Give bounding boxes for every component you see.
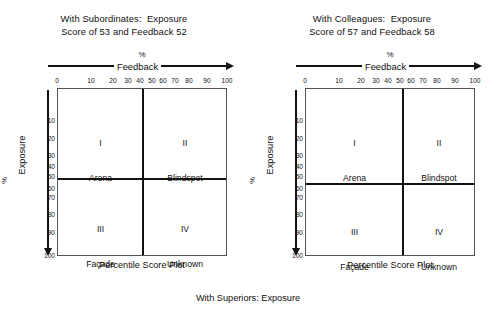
panel-title-line1: With Colleagues: Exposure <box>248 12 496 25</box>
x-tick-100: 100 <box>469 76 480 85</box>
x-tick-40: 40 <box>384 76 391 85</box>
arrow-right-icon <box>226 62 234 70</box>
y-tick-30: 30 <box>48 152 55 160</box>
y-tick-50: 50 <box>296 173 303 181</box>
panel-title: With Colleagues: Exposure Score of 57 an… <box>248 12 496 38</box>
x-tick-40: 40 <box>136 76 143 85</box>
quadrant-blindspot-roman: II <box>143 138 227 150</box>
quadrant-unknown-roman: IV <box>403 227 475 239</box>
y-tick-70: 70 <box>48 194 55 202</box>
quadrant-unknown: IV Unknown <box>143 201 227 293</box>
y-tick-60: 60 <box>48 185 55 193</box>
quadrant-arena: I Arena <box>306 115 403 207</box>
x-tick-30: 30 <box>372 76 379 85</box>
x-tick-90: 90 <box>203 76 210 85</box>
quadrant-blindspot-name: Blindspot <box>143 173 227 185</box>
quadrant-facade: III Façade <box>58 201 143 293</box>
x-tick-70: 70 <box>419 76 426 85</box>
quadrant-blindspot-name: Blindspot <box>403 173 475 185</box>
quadrant-blindspot: II Blindspot <box>403 115 475 207</box>
quadrant-blindspot-roman: II <box>403 138 475 150</box>
y-tick-10: 10 <box>48 117 55 125</box>
y-tick-40: 40 <box>296 163 303 171</box>
x-axis-line-left <box>48 65 114 67</box>
x-tick-50: 50 <box>148 76 155 85</box>
x-tick-80: 80 <box>433 76 440 85</box>
quadrant-unknown-roman: IV <box>143 224 227 236</box>
x-axis-arrow: Feedback <box>296 59 482 73</box>
quadrant-arena-name: Arena <box>58 173 143 185</box>
x-tick-80: 80 <box>185 76 192 85</box>
y-axis-percent-symbol: % <box>248 177 257 184</box>
quadrant-facade-roman: III <box>306 227 403 239</box>
y-tick-80: 80 <box>48 211 55 219</box>
x-tick-60: 60 <box>159 76 166 85</box>
quadrant-arena-roman: I <box>58 138 143 150</box>
x-tick-labels: 0 10 20 30 40 50 60 70 80 90 100 <box>248 76 496 88</box>
x-axis-line-left <box>296 65 362 67</box>
quadrant-unknown: IV Unknown <box>403 204 475 296</box>
y-axis-percent-symbol: % <box>0 177 9 184</box>
plot-caption: Percentile Score Plot <box>57 260 227 270</box>
y-tick-30: 30 <box>296 152 303 160</box>
x-tick-60: 60 <box>407 76 414 85</box>
panel-title-line2: Score of 53 and Feedback 52 <box>0 25 248 38</box>
x-axis-percent-symbol: % <box>57 50 227 59</box>
x-tick-20: 20 <box>357 76 364 85</box>
y-tick-70: 70 <box>296 194 303 202</box>
x-axis-line-right <box>161 65 227 67</box>
panel-title-line1: With Subordinates: Exposure <box>0 12 248 25</box>
x-tick-30: 30 <box>124 76 131 85</box>
y-tick-labels: 10 20 30 40 50 60 70 80 90 100 <box>40 88 56 258</box>
y-tick-100: 100 <box>292 252 303 260</box>
x-axis-percent-symbol: % <box>305 50 475 59</box>
x-tick-20: 20 <box>109 76 116 85</box>
y-tick-60: 60 <box>296 185 303 193</box>
y-axis-label: Exposure <box>17 110 27 200</box>
quadrant-arena: I Arena <box>58 115 143 207</box>
johari-window-plot[interactable]: I Arena II Blindspot III Façade IV Unkno… <box>305 88 475 256</box>
y-tick-10: 10 <box>296 117 303 125</box>
x-axis-label: Feedback <box>362 61 409 72</box>
x-tick-70: 70 <box>171 76 178 85</box>
y-tick-labels: 10 20 30 40 50 60 70 80 90 100 <box>288 88 304 258</box>
x-tick-0: 0 <box>303 76 307 85</box>
x-tick-50: 50 <box>396 76 403 85</box>
quadrant-facade: III Façade <box>306 204 403 296</box>
y-axis-label: Exposure <box>265 110 275 200</box>
x-tick-labels: 0 10 20 30 40 50 60 70 80 90 100 <box>0 76 248 88</box>
panel-title-line2: Score of 57 and Feedback 58 <box>248 25 496 38</box>
y-tick-80: 80 <box>296 211 303 219</box>
x-axis-label: Feedback <box>114 61 161 72</box>
johari-window-plot[interactable]: I Arena II Blindspot III Façade IV Unkno… <box>57 88 227 256</box>
y-tick-40: 40 <box>48 163 55 171</box>
y-tick-50: 50 <box>48 173 55 181</box>
quadrant-arena-name: Arena <box>306 173 403 185</box>
x-axis-arrow: Feedback <box>48 59 234 73</box>
arrow-right-icon <box>474 62 482 70</box>
plot-caption: Percentile Score Plot <box>305 260 475 270</box>
x-tick-10: 10 <box>87 76 94 85</box>
panel-subordinates: With Subordinates: Exposure Score of 53 … <box>0 0 248 285</box>
y-tick-20: 20 <box>48 135 55 143</box>
footer-note: With Superiors: Exposure <box>0 293 496 303</box>
x-tick-0: 0 <box>55 76 59 85</box>
y-tick-20: 20 <box>296 135 303 143</box>
panel-colleagues: With Colleagues: Exposure Score of 57 an… <box>248 0 496 285</box>
y-tick-90: 90 <box>296 229 303 237</box>
y-tick-90: 90 <box>48 229 55 237</box>
x-tick-100: 100 <box>221 76 232 85</box>
quadrant-arena-roman: I <box>306 138 403 150</box>
x-tick-90: 90 <box>451 76 458 85</box>
x-tick-10: 10 <box>335 76 342 85</box>
x-axis-line-right <box>409 65 475 67</box>
y-tick-100: 100 <box>44 252 55 260</box>
panel-title: With Subordinates: Exposure Score of 53 … <box>0 12 248 38</box>
quadrant-facade-roman: III <box>58 224 143 236</box>
panels-container: With Subordinates: Exposure Score of 53 … <box>0 0 496 285</box>
quadrant-blindspot: II Blindspot <box>143 115 227 207</box>
